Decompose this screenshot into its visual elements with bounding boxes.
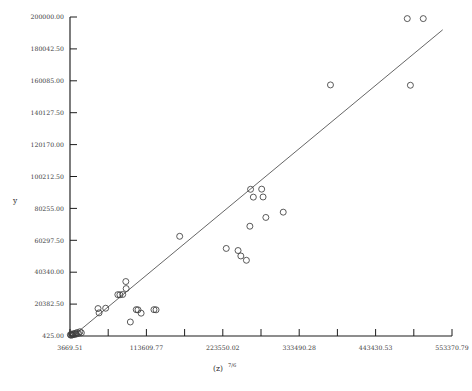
data-point — [223, 245, 229, 251]
data-point — [259, 186, 265, 192]
x-axis-group: 3669.51113609.77223550.02333490.28443430… — [57, 329, 469, 373]
y-axis-title: y — [12, 196, 18, 205]
scatter-plot: 425.0020382.5040340.0060297.5080255.0010… — [0, 0, 472, 391]
data-point — [103, 305, 109, 311]
y-tick-label: 20382.50 — [34, 300, 64, 307]
data-point — [280, 209, 286, 215]
data-point — [250, 194, 256, 200]
x-axis-title-exponent: 7/6 — [228, 362, 236, 368]
data-point — [123, 279, 129, 285]
y-tick-label: 200000.00 — [31, 13, 65, 20]
data-point — [123, 286, 129, 292]
y-tick-label: 140127.50 — [31, 109, 65, 116]
x-tick-label: 223550.02 — [206, 344, 240, 351]
x-tick-label: 443430.53 — [359, 344, 393, 351]
y-tick-label: 60297.50 — [34, 237, 64, 244]
data-point — [247, 223, 253, 229]
data-point — [404, 16, 410, 22]
data-points — [67, 16, 426, 339]
data-point — [420, 16, 426, 22]
data-point — [127, 319, 133, 325]
y-axis-ticks — [70, 17, 77, 336]
y-tick-label: 40340.00 — [34, 268, 64, 275]
y-tick-label: 100212.50 — [31, 173, 65, 180]
y-axis-tick-labels: 425.0020382.5040340.0060297.5080255.0010… — [31, 13, 65, 339]
y-axis-group: 425.0020382.5040340.0060297.5080255.0010… — [12, 13, 77, 339]
data-point — [238, 253, 244, 259]
y-tick-label: 80255.00 — [34, 205, 64, 212]
data-point — [260, 194, 266, 200]
data-point — [177, 233, 183, 239]
y-tick-label: 120170.00 — [31, 141, 65, 148]
x-tick-label: 113609.77 — [130, 344, 164, 351]
y-tick-label: 425.00 — [42, 332, 64, 339]
x-axis-tick-labels: 3669.51113609.77223550.02333490.28443430… — [57, 344, 469, 351]
x-axis-ticks — [70, 329, 452, 336]
data-point — [243, 257, 249, 263]
x-tick-label: 3669.51 — [57, 344, 83, 351]
data-point — [263, 214, 269, 220]
x-axis-title-base: (z) — [213, 364, 223, 373]
x-tick-label: 333490.28 — [282, 344, 316, 351]
y-tick-label: 160085.00 — [31, 77, 65, 84]
data-point — [327, 82, 333, 88]
y-tick-label: 180042.50 — [31, 45, 65, 52]
x-tick-label: 553370.79 — [435, 344, 469, 351]
data-point — [95, 306, 101, 312]
data-point — [407, 82, 413, 88]
